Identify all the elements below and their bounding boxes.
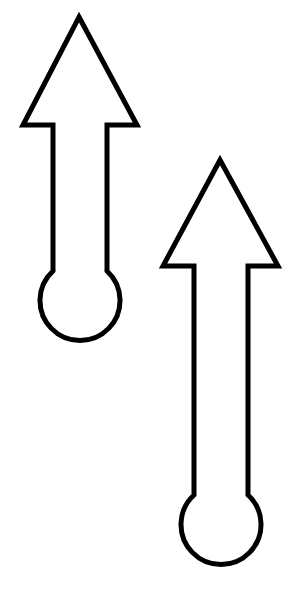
up-arrow-icon xyxy=(23,17,137,341)
up-arrow-icon xyxy=(163,160,278,565)
arrows-canvas xyxy=(0,0,306,593)
